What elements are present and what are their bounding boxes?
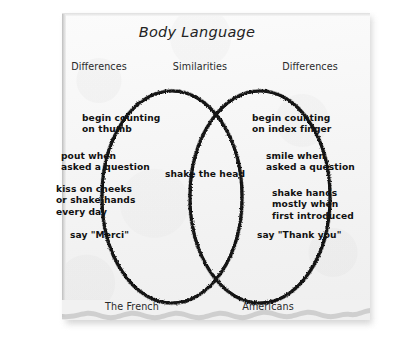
header-right-differences: Differences — [273, 61, 347, 73]
right-circle-item-4: say "Thank you" — [257, 230, 342, 241]
overlap-item-1: shake the head — [165, 169, 245, 180]
right-circle-item-2: smile when asked a question — [266, 151, 355, 174]
right-circle-item-1: begin counting on index finger — [252, 113, 331, 136]
left-circle-item-2: pout when asked a question — [61, 151, 150, 174]
header-left-differences: Differences — [64, 61, 134, 73]
page-title: Body Language — [0, 24, 394, 42]
footer-left-the-french: The French — [92, 301, 172, 313]
left-circle-item-3: kiss on cheeks or shake hands every day — [56, 184, 135, 218]
left-circle-item-4: say "Merci" — [70, 230, 129, 241]
footer-right-americans: Americans — [228, 301, 308, 313]
header-middle-similarities: Similarities — [167, 61, 233, 73]
screenshot-canvas: Body Language Differences Similarities D… — [0, 0, 394, 351]
right-circle-item-3: shake hands mostly when first introduced — [272, 188, 354, 222]
left-circle-item-1: begin counting on thumb — [82, 113, 160, 136]
